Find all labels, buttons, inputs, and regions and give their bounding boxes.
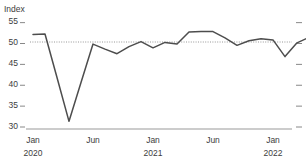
x-tick-month-label: Jun (206, 135, 220, 145)
x-tick-year-label: 2020 (24, 148, 43, 158)
y-axis-title: Index (4, 4, 26, 14)
y-tick-label: 45 (9, 58, 19, 68)
x-tick-month-label: Jan (26, 135, 40, 145)
x-tick-year-label: 2022 (264, 148, 283, 158)
y-tick-label: 35 (9, 100, 19, 110)
index-line-chart: 303540455055 Jan2020JunJan2021JunJan2022… (0, 0, 306, 164)
y-tick-label: 55 (9, 16, 19, 26)
chart-canvas: 303540455055 Jan2020JunJan2021JunJan2022… (0, 0, 306, 164)
x-tick-year-label: 2021 (144, 148, 163, 158)
x-tick-month-label: Jun (86, 135, 100, 145)
y-tick-label: 50 (9, 37, 19, 47)
x-axis: Jan2020JunJan2021JunJan2022 (24, 135, 283, 158)
y-axis: 303540455055 (9, 16, 25, 130)
x-tick-month-label: Jan (266, 135, 280, 145)
index-series-line (33, 32, 306, 122)
right-axis-ticks (296, 23, 302, 127)
y-tick-label: 40 (9, 79, 19, 89)
y-tick-label: 30 (9, 121, 19, 131)
x-tick-month-label: Jan (146, 135, 160, 145)
